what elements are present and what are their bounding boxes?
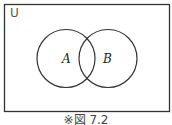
universe-label: U bbox=[10, 7, 19, 19]
venn-diagram bbox=[0, 0, 172, 125]
universe-rectangle bbox=[5, 5, 170, 112]
figure-caption: ※図 7.2 bbox=[0, 114, 172, 125]
set-a-label: A bbox=[62, 53, 71, 65]
set-b-label: B bbox=[103, 53, 112, 65]
